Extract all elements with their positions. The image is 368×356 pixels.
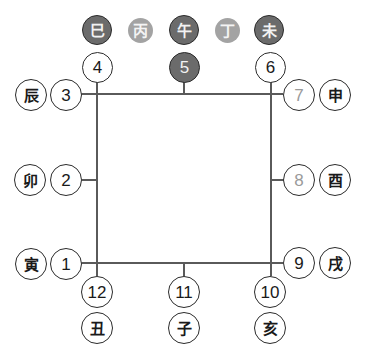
stem-node-si: 巳: [82, 15, 112, 45]
branch-chen: 辰: [15, 79, 47, 111]
position-4: 4: [82, 52, 113, 83]
stem-node-ding: 丁: [215, 18, 240, 43]
branch-zi: 子: [168, 312, 200, 344]
tick-bottom-center: [183, 262, 185, 276]
tick-right-middle: [270, 179, 284, 181]
branch-yin: 寅: [15, 248, 47, 280]
branch-shen: 申: [319, 79, 351, 111]
stem-label: 丙: [133, 23, 148, 38]
position-9: 9: [283, 247, 315, 279]
position-2: 2: [50, 164, 82, 196]
branch-mao: 卯: [14, 164, 46, 196]
stem-label: 未: [262, 23, 277, 38]
branch-hai: 亥: [254, 312, 286, 344]
frame-top-line: [81, 93, 283, 95]
stem-node-bing: 丙: [128, 18, 153, 43]
tick-left-middle: [82, 179, 97, 181]
branch-xu: 戌: [319, 247, 351, 279]
stem-label: 午: [177, 23, 192, 38]
position-1: 1: [50, 248, 82, 280]
position-6: 6: [255, 52, 286, 83]
branch-you: 酉: [319, 164, 351, 196]
position-12: 12: [81, 276, 113, 308]
stem-node-wei: 未: [254, 15, 284, 45]
position-11: 11: [168, 276, 200, 308]
position-10: 10: [254, 276, 286, 308]
position-8: 8: [283, 164, 315, 196]
stem-label: 丁: [220, 23, 235, 38]
position-7: 7: [283, 79, 315, 111]
branch-chou: 丑: [81, 312, 113, 344]
frame-bottom-line: [81, 262, 283, 264]
stem-label: 巳: [90, 23, 105, 38]
position-3: 3: [50, 79, 82, 111]
stem-node-wu: 午: [169, 15, 199, 45]
palace-diagram: 巳 丙 午 丁 未 4 5 6 辰 3 卯 2 寅 1 7 申 8 酉 9 戌 …: [0, 0, 368, 356]
position-5: 5: [169, 52, 200, 83]
tick-top-center: [183, 82, 185, 94]
